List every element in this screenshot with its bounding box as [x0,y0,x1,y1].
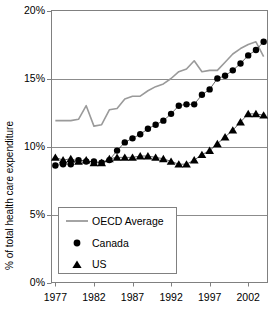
data-point-marker [206,86,212,92]
data-point-marker [230,67,236,73]
x-tick-label: 1987 [121,291,145,303]
legend-label-canada: Canada [92,237,129,249]
data-point-marker [129,135,135,141]
data-point-marker [51,153,60,160]
data-point-marker [191,101,197,107]
series-line [55,114,263,164]
y-axis-title: % of total health care expenditure [4,121,15,270]
chart-container: % of total health care expenditure 0%5%1… [0,0,274,311]
data-point-marker [66,155,75,162]
data-point-marker [152,122,158,128]
data-point-marker [145,126,151,132]
data-point-marker [160,117,166,123]
series-oecd-average [55,42,263,126]
data-point-marker [167,157,176,164]
data-point-marker [237,60,243,66]
data-point-marker [122,139,128,145]
data-point-marker [168,111,174,117]
data-point-marker [253,47,259,53]
data-point-marker [114,147,120,153]
legend-label-oecd: OECD Average [92,215,164,227]
series-canada [52,39,267,169]
legend-label-us: US [92,258,107,270]
data-point-marker [183,101,189,107]
chart-legend: OECD Average Canada US [59,208,177,274]
gridlines [52,80,268,216]
data-point-marker [52,162,58,168]
legend-circle-marker-canada [74,240,81,247]
x-axis-tick-labels: 197719821987199219972002 [44,283,260,304]
y-tick-label: 10% [24,140,45,152]
data-point-marker [214,75,220,81]
y-tick-label: 0% [30,276,45,288]
y-tick-label: 5% [30,208,45,220]
data-series-layer [51,39,268,169]
series-line [55,42,263,166]
data-point-marker [176,103,182,109]
data-point-marker [222,73,228,79]
x-tick-label: 1997 [198,291,222,303]
x-tick-label: 2002 [237,291,261,303]
y-tick-label: 20% [24,4,45,16]
y-tick-label: 15% [24,72,45,84]
x-tick-label: 1982 [82,291,106,303]
x-tick-label: 1977 [44,291,68,303]
series-us [51,110,268,168]
data-point-marker [82,156,91,163]
y-axis-tick-labels: 0%5%10%15%20% [24,4,52,288]
data-point-marker [190,156,199,163]
x-tick-label: 1992 [159,291,183,303]
series-line [55,42,263,126]
data-point-marker [245,52,251,58]
data-point-marker [199,92,205,98]
data-point-marker [137,131,143,137]
data-point-marker [198,151,207,158]
data-point-marker [260,39,266,45]
health-expenditure-line-chart: % of total health care expenditure 0%5%1… [0,0,274,311]
